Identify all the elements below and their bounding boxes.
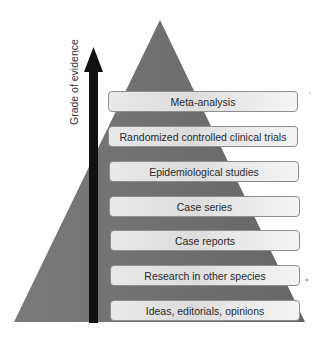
stray-dot bbox=[306, 279, 308, 281]
stray-dot bbox=[309, 92, 311, 94]
tier-case-reports: Case reports bbox=[110, 230, 300, 251]
axis-label-grade-of-evidence: Grade of evidence bbox=[68, 39, 80, 125]
tier-randomized-controlled-trials: Randomized controlled clinical trials bbox=[108, 126, 298, 147]
tier-epidemiological-studies: Epidemiological studies bbox=[109, 161, 299, 182]
tier-meta-analysis: Meta-analysis bbox=[108, 91, 298, 112]
tier-research-other-species: Research in other species bbox=[110, 265, 300, 286]
tier-ideas-editorials-opinions: Ideas, editorials, opinions bbox=[110, 300, 300, 321]
evidence-pyramid-figure: Grade of evidence Meta-analysis Randomiz… bbox=[0, 0, 323, 339]
tier-case-series: Case series bbox=[109, 196, 300, 217]
